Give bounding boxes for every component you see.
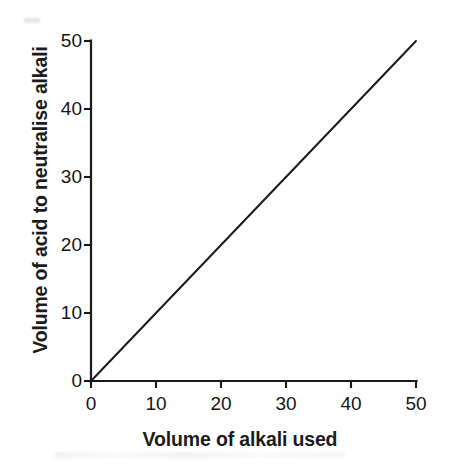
x-tick-label-50: 50 [396, 394, 436, 413]
x-tick-label-30: 30 [266, 394, 306, 413]
y-axis-title: Volume of acid to neutralise alkali [25, 0, 55, 400]
x-tick-label-0: 0 [71, 394, 111, 413]
x-axis-tick-labels: 0 10 20 30 40 50 [0, 0, 449, 465]
x-axis-title: Volume of alkali used [60, 428, 420, 451]
chart-figure: 50 40 30 20 10 0 0 10 20 30 40 50 Volume… [0, 0, 449, 465]
x-tick-label-10: 10 [136, 394, 176, 413]
x-tick-label-40: 40 [331, 394, 371, 413]
x-tick-label-20: 20 [201, 394, 241, 413]
